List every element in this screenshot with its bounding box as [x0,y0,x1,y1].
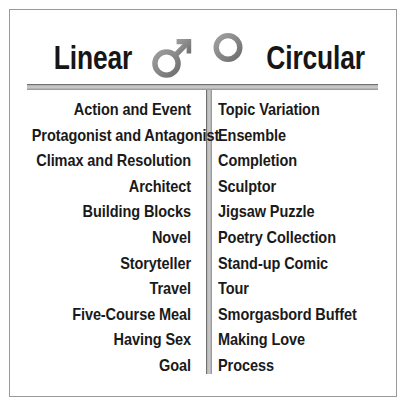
list-item: Completion [218,148,376,174]
list-item: Goal [32,353,191,379]
list-item: Making Love [218,327,376,353]
list-item: Storyteller [32,251,191,277]
list-item: Action and Event [32,97,191,123]
list-item: Smorgasbord Buffet [218,302,376,328]
list-item: Sculptor [218,174,376,200]
list-item: Ensemble [218,123,376,149]
list-item: Five-Course Meal [32,302,191,328]
circular-column: Topic Variation Ensemble Completion Scul… [206,97,398,379]
male-gender-symbol-icon [148,33,196,81]
poster-frame: Linear [9,9,397,397]
comparison-columns: Action and Event Protagonist and Antagon… [10,97,398,379]
horizontal-divider-rule [27,84,378,90]
list-item: Architect [32,174,191,200]
list-item: Process [218,353,376,379]
list-item: Travel [32,276,191,302]
list-item: Topic Variation [218,97,376,123]
list-item: Having Sex [32,327,191,353]
poster-root: Linear [0,0,406,406]
list-item: Climax and Resolution [32,148,191,174]
list-item: Protagonist and Antagonist [32,123,191,149]
page-title-linear: Linear [54,41,132,74]
list-item: Novel [32,225,191,251]
list-item: Jigsaw Puzzle [218,199,376,225]
list-item: Poetry Collection [218,225,376,251]
header-right-group: Circular [200,26,396,88]
female-gender-symbol-icon [206,31,250,83]
list-item: Stand-up Comic [218,251,376,277]
page-title-circular: Circular [266,41,365,74]
header-left-group: Linear [12,26,200,88]
list-item: Building Blocks [32,199,191,225]
header: Linear [10,26,398,88]
list-item: Tour [218,276,376,302]
linear-column: Action and Event Protagonist and Antagon… [10,97,206,379]
